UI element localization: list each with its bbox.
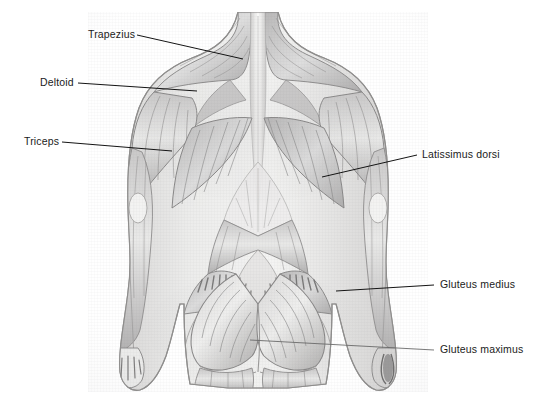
label-layer: Trapezius Deltoid Triceps Latissimus dor…	[0, 0, 542, 412]
label-deltoid: Deltoid	[40, 76, 74, 88]
label-gluteus-medius: Gluteus medius	[440, 278, 515, 290]
anatomy-figure-page: Trapezius Deltoid Triceps Latissimus dor…	[0, 0, 542, 412]
label-triceps: Triceps	[24, 135, 59, 147]
label-latissimus-dorsi: Latissimus dorsi	[422, 148, 500, 160]
label-trapezius: Trapezius	[88, 28, 135, 40]
label-gluteus-maximus: Gluteus maximus	[440, 343, 523, 355]
